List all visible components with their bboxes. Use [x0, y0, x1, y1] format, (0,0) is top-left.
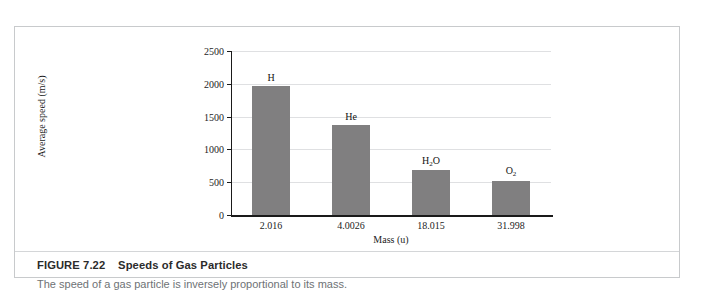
- y-tick-label: 0: [219, 210, 224, 221]
- bar-value-label: He: [345, 111, 357, 122]
- y-tick-mark: [227, 215, 231, 216]
- x-axis-title: Mass (u): [231, 234, 551, 245]
- plot-inner: 05001000150020002500 H2.016He4.0026H2O18…: [231, 51, 551, 215]
- bar-value-label: O2: [506, 165, 517, 178]
- bar[interactable]: He: [332, 125, 370, 215]
- y-tick-label: 500: [209, 177, 224, 188]
- x-tick-label: 4.0026: [337, 220, 365, 231]
- y-axis-title: Average speed (m/s): [36, 47, 47, 187]
- y-tick-label: 2000: [204, 78, 224, 89]
- x-tick-label: 31.998: [497, 220, 525, 231]
- bar-slot: He4.0026: [311, 51, 391, 215]
- y-tick-label: 1500: [204, 111, 224, 122]
- x-axis-line: [231, 215, 553, 217]
- figure-number: FIGURE 7.22: [37, 259, 105, 271]
- bar-value-label: H2O: [422, 155, 440, 168]
- bar-slot: O231.998: [471, 51, 551, 215]
- bar[interactable]: H2O: [412, 170, 450, 215]
- bar[interactable]: H: [252, 86, 290, 215]
- x-tick-label: 18.015: [417, 220, 445, 231]
- chart-area: Average speed (m/s) 05001000150020002500…: [15, 27, 679, 251]
- y-tick-label: 1000: [204, 144, 224, 155]
- bar-slot: H2.016: [231, 51, 311, 215]
- caption-block: FIGURE 7.22 Speeds of Gas Particles The …: [37, 259, 637, 290]
- bar-value-label: H: [267, 72, 274, 83]
- y-tick-label: 2500: [204, 46, 224, 57]
- figure-caption-title: FIGURE 7.22 Speeds of Gas Particles: [37, 259, 637, 271]
- x-tick-label: 2.016: [260, 220, 283, 231]
- figure-container: Average speed (m/s) 05001000150020002500…: [14, 26, 680, 278]
- bar[interactable]: O2: [492, 181, 530, 215]
- caption-divider: [15, 251, 679, 252]
- figure-caption-subtitle: The speed of a gas particle is inversely…: [37, 278, 637, 290]
- bar-slot: H2O18.015: [391, 51, 471, 215]
- figure-title-text: Speeds of Gas Particles: [118, 259, 248, 271]
- plot-wrapper: Average speed (m/s) 05001000150020002500…: [15, 27, 679, 251]
